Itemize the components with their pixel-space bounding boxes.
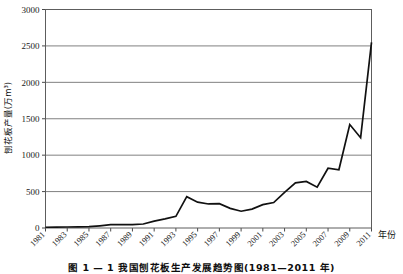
y-tick-label-1000: 1000 [22, 150, 41, 160]
x-tick-label-1997: 1997 [202, 229, 221, 248]
y-axis-title-group: 刨花板产量(万m³) [3, 82, 13, 154]
x-tick-label-1981: 1981 [28, 229, 47, 248]
x-tick-label-1987: 1987 [93, 229, 112, 248]
gridlines-group [46, 46, 372, 192]
y-tick-label-500: 500 [26, 187, 40, 197]
x-tick-label-2001: 2001 [245, 229, 264, 248]
x-tick-label-1989: 1989 [115, 229, 134, 248]
x-axis-tick-labels: 1981198319851987198919911993199519971999… [28, 229, 373, 248]
x-tick-label-1999: 1999 [223, 229, 242, 248]
y-tick-label-2000: 2000 [22, 78, 41, 88]
y-axis-title: 刨花板产量(万m³) [3, 82, 13, 154]
x-tick-label-1991: 1991 [136, 229, 155, 248]
x-axis-title: 年份 [378, 229, 396, 240]
x-tick-label-2005: 2005 [289, 229, 308, 248]
data-line-series-1 [46, 42, 372, 227]
x-tick-label-1983: 1983 [50, 229, 69, 248]
y-tick-label-1500: 1500 [22, 114, 41, 124]
x-tick-label-1985: 1985 [71, 229, 90, 248]
y-axis-tick-marks [42, 10, 46, 229]
figure-caption: 图 1 — 1 我国刨花板生产发展趋势图(1981—2011 年) [0, 261, 403, 274]
y-tick-label-3000: 3000 [22, 5, 41, 15]
y-tick-label-2500: 2500 [22, 41, 41, 51]
x-tick-label-2009: 2009 [332, 229, 351, 248]
x-tick-label-2003: 2003 [267, 229, 286, 248]
x-tick-label-1993: 1993 [158, 229, 177, 248]
x-tick-label-2007: 2007 [310, 229, 329, 248]
y-axis-tick-labels: 050010001500200025003000 [22, 5, 41, 234]
x-tick-label-2011: 2011 [354, 229, 373, 248]
x-tick-label-1995: 1995 [180, 229, 199, 248]
